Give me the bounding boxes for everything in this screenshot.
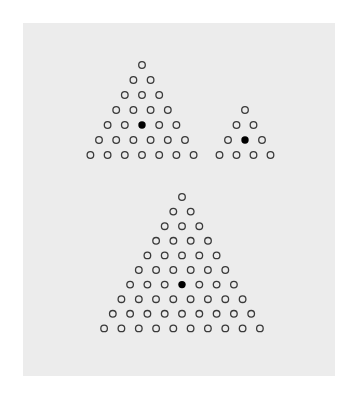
open-dot [153, 267, 160, 274]
open-dot [242, 107, 249, 114]
open-dot [96, 137, 103, 144]
open-dot [139, 92, 146, 99]
open-dot [144, 311, 151, 318]
open-dot [179, 311, 186, 318]
open-dot [113, 137, 120, 144]
open-dot [147, 137, 154, 144]
dot-triangles-diagram [0, 0, 354, 395]
open-dot [101, 325, 108, 332]
open-dot [179, 223, 186, 230]
open-dot [225, 137, 232, 144]
open-dot [170, 325, 177, 332]
open-dot [161, 311, 168, 318]
small-triangle [216, 107, 274, 159]
open-dot [231, 311, 238, 318]
open-dot [196, 252, 203, 259]
open-dot [213, 252, 220, 259]
open-dot [248, 311, 255, 318]
open-dot [130, 77, 137, 84]
open-dot [130, 137, 137, 144]
open-dot [205, 238, 212, 245]
open-dot [161, 252, 168, 259]
open-dot [165, 107, 172, 114]
open-dot [179, 194, 186, 201]
open-dot [156, 122, 163, 129]
open-dot [144, 252, 151, 259]
open-dot [182, 137, 189, 144]
open-dot [170, 238, 177, 245]
open-dot [213, 311, 220, 318]
filled-center-dot [138, 121, 145, 128]
open-dot [222, 325, 229, 332]
open-dot [222, 267, 229, 274]
open-dot [122, 152, 129, 159]
open-dot [196, 281, 203, 288]
open-dot [259, 137, 266, 144]
open-dot [127, 281, 134, 288]
open-dot [110, 311, 117, 318]
open-dot [153, 296, 160, 303]
open-dot [250, 122, 257, 129]
open-dot [187, 208, 194, 215]
open-dot [136, 267, 143, 274]
open-dot [190, 152, 197, 159]
open-dot [173, 152, 180, 159]
open-dot [231, 281, 238, 288]
open-dot [147, 107, 154, 114]
open-dot [130, 107, 137, 114]
open-dot [87, 152, 94, 159]
open-dot [170, 208, 177, 215]
filled-center-dot [178, 281, 185, 288]
open-dot [239, 325, 246, 332]
open-dot [173, 122, 180, 129]
open-dot [205, 296, 212, 303]
open-dot [113, 107, 120, 114]
open-dot [156, 152, 163, 159]
open-dot [222, 296, 229, 303]
open-dot [118, 296, 125, 303]
open-dot [233, 152, 240, 159]
open-dot [170, 267, 177, 274]
open-dot [196, 223, 203, 230]
open-dot [187, 325, 194, 332]
open-dot [213, 281, 220, 288]
open-dot [127, 311, 134, 318]
open-dot [205, 325, 212, 332]
open-dot [233, 122, 240, 129]
open-dot [216, 152, 223, 159]
open-dot [250, 152, 257, 159]
open-dot [153, 238, 160, 245]
open-dot [118, 325, 125, 332]
open-dot [239, 296, 246, 303]
open-dot [257, 325, 264, 332]
open-dot [136, 325, 143, 332]
open-dot [187, 296, 194, 303]
filled-center-dot [241, 136, 248, 143]
open-dot [153, 325, 160, 332]
open-dot [267, 152, 274, 159]
open-dot [205, 267, 212, 274]
open-dot [196, 311, 203, 318]
open-dot [122, 122, 129, 129]
open-dot [139, 62, 146, 69]
open-dot [161, 281, 168, 288]
open-dot [139, 152, 146, 159]
large-top-triangle [87, 62, 197, 159]
open-dot [156, 92, 163, 99]
open-dot [122, 92, 129, 99]
open-dot [104, 152, 111, 159]
open-dot [165, 137, 172, 144]
open-dot [187, 238, 194, 245]
open-dot [179, 252, 186, 259]
open-dot [147, 77, 154, 84]
open-dot [104, 122, 111, 129]
open-dot [161, 223, 168, 230]
open-dot [170, 296, 177, 303]
open-dot [144, 281, 151, 288]
open-dot [136, 296, 143, 303]
open-dot [187, 267, 194, 274]
bottom-triangle [101, 194, 263, 332]
